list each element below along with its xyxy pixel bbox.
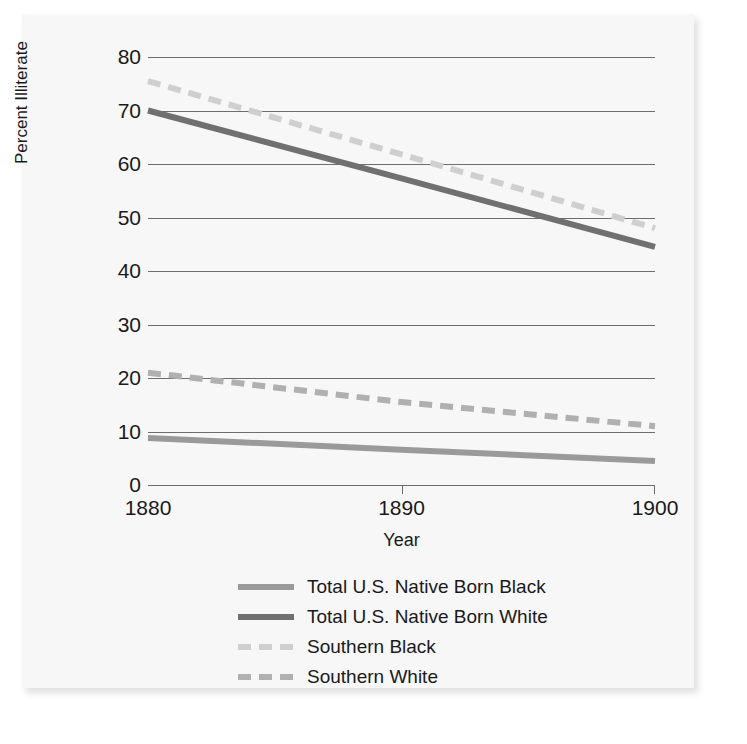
series-line [148, 81, 655, 228]
y-axis-tick-label: 70 [81, 100, 141, 121]
legend-label: Total U.S. Native Born White [307, 606, 548, 628]
y-axis-tick-label: 0 [81, 474, 141, 495]
x-axis-tick-mark [654, 485, 655, 494]
y-axis-tick-label: 50 [81, 207, 141, 228]
y-axis-tick-label: 10 [81, 421, 141, 442]
legend-swatch-icon [238, 674, 294, 680]
chart-page: Percent Illiterate 01020304050607080 188… [0, 0, 747, 744]
legend-swatch-icon [238, 644, 294, 650]
legend-item[interactable]: Southern White [238, 662, 658, 692]
x-axis-tick-label: 1880 [98, 497, 198, 518]
series-line [148, 373, 655, 427]
y-axis-tick-label: 80 [81, 46, 141, 67]
series-line [148, 111, 655, 247]
x-axis-title: Year [148, 530, 655, 551]
y-axis-title: Percent Illiterate [12, 41, 32, 164]
x-axis-tick-label: 1900 [605, 497, 705, 518]
y-axis-tick-label: 40 [81, 260, 141, 281]
legend-label: Total U.S. Native Born Black [307, 576, 546, 598]
legend-item[interactable]: Total U.S. Native Born Black [238, 572, 658, 602]
legend-label: Southern Black [307, 636, 436, 658]
legend-swatch-icon [238, 584, 294, 590]
figure-panel: Percent Illiterate 01020304050607080 188… [22, 14, 694, 688]
series-lines [148, 57, 655, 485]
legend-swatch-icon [238, 614, 294, 620]
series-line [148, 438, 655, 461]
x-axis-tick-label: 1890 [352, 497, 452, 518]
x-axis-tick-mark [402, 485, 403, 494]
y-axis-tick-label: 20 [81, 367, 141, 388]
legend-item[interactable]: Total U.S. Native Born White [238, 602, 658, 632]
y-axis-tick-label: 30 [81, 314, 141, 335]
chart-legend: Total U.S. Native Born BlackTotal U.S. N… [238, 572, 658, 692]
legend-item[interactable]: Southern Black [238, 632, 658, 662]
plot-wrapper: Percent Illiterate 01020304050607080 188… [22, 14, 694, 688]
y-axis-tick-label: 60 [81, 153, 141, 174]
plot-area: 01020304050607080 188018901900 [148, 57, 655, 485]
legend-label: Southern White [307, 666, 438, 688]
